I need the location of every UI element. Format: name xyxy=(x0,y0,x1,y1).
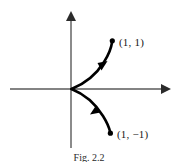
lower-branch-curve xyxy=(72,89,111,133)
figure-container: (1, 1) (1, −1) Fig. 2.2 xyxy=(0,0,178,162)
figure-graphic xyxy=(0,0,178,162)
point-label-upper: (1, 1) xyxy=(119,36,144,48)
point-label-lower: (1, −1) xyxy=(117,128,148,140)
lower-endpoint-dot xyxy=(108,131,113,136)
upper-endpoint-dot xyxy=(110,38,115,43)
upper-branch-curve xyxy=(72,42,113,90)
vertical-axis-arrow-icon xyxy=(66,11,76,21)
figure-caption: Fig. 2.2 xyxy=(0,152,178,162)
horizontal-axis-arrow-icon xyxy=(161,84,171,94)
